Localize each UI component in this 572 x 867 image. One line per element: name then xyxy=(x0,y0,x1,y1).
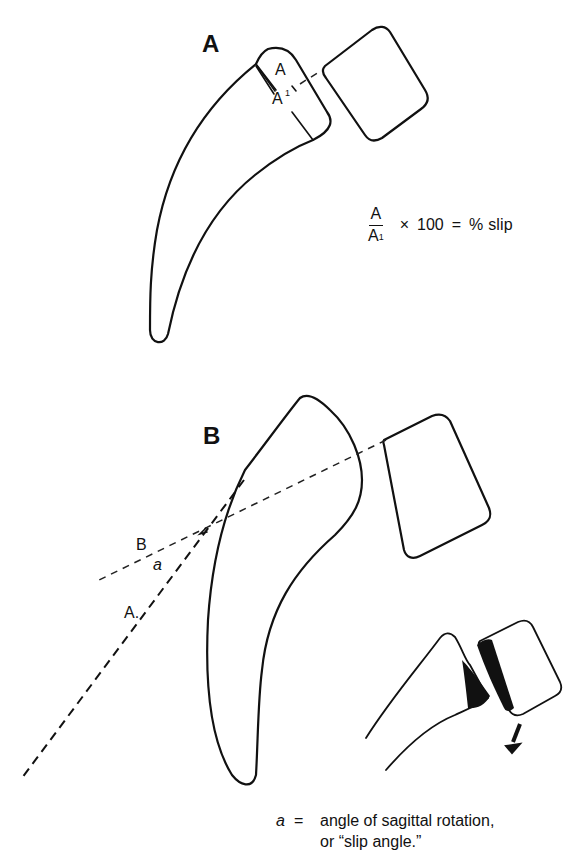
legend-symbol: a xyxy=(276,810,294,831)
formula-fraction: A A1 xyxy=(368,205,384,245)
panel-a-sacrum-outline xyxy=(150,48,330,342)
panel-b: B B a A. xyxy=(22,396,561,785)
panel-a-label-a-prime: A xyxy=(272,90,283,107)
panel-b-sacrum-outline xyxy=(207,396,362,785)
panel-a-label-a: A xyxy=(275,61,286,78)
panel-b-label: B xyxy=(203,422,220,449)
panel-a-inner-line xyxy=(257,66,275,91)
legend-definition-line-2: or “slip angle.” xyxy=(276,831,494,852)
formula-denominator: A1 xyxy=(368,226,384,245)
panel-a: A A A 1 xyxy=(150,27,428,342)
formula-denominator-base: A xyxy=(368,227,379,244)
panel-b-adjacent-vertebra xyxy=(383,415,490,558)
panel-a-label-a-prime-superscript: 1 xyxy=(285,88,290,98)
formula-denominator-superscript: 1 xyxy=(379,232,384,242)
panel-a-measure-tick xyxy=(292,86,296,91)
legend-line-1: a=angle of sagittal rotation, xyxy=(276,810,494,831)
panel-b-inset xyxy=(366,621,561,770)
panel-b-line-a xyxy=(22,480,244,778)
panel-a-label: A xyxy=(202,30,219,57)
arrow-down-left-icon xyxy=(506,724,520,753)
formula-equals: = xyxy=(452,216,461,234)
formula-times: × xyxy=(400,216,409,234)
formula-factor: 100 xyxy=(417,216,444,234)
panel-b-label-angle: a xyxy=(153,556,162,573)
panel-a-adjacent-vertebra xyxy=(323,27,428,141)
panel-b-line-b xyxy=(95,440,386,582)
slip-percentage-formula: A A1 × 100 = % slip xyxy=(368,205,513,245)
formula-numerator: A xyxy=(369,205,384,226)
panel-b-label-line-b: B xyxy=(136,536,147,553)
slip-angle-legend: a=angle of sagittal rotation, or “slip a… xyxy=(276,810,494,852)
legend-equals: = xyxy=(294,810,320,831)
spondylolisthesis-diagram: A A A 1 B B a A. xyxy=(0,0,572,867)
formula-result: % slip xyxy=(469,216,513,234)
panel-b-label-line-a: A. xyxy=(124,604,139,621)
legend-definition-line-1: angle of sagittal rotation, xyxy=(320,812,494,829)
